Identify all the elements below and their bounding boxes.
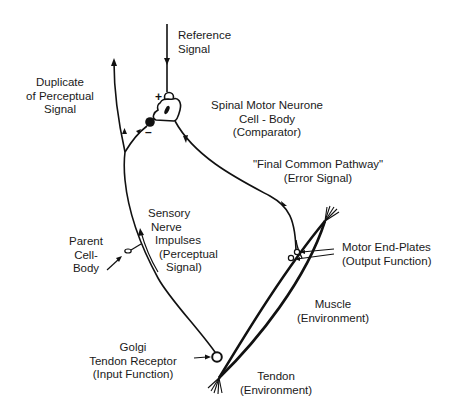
motor-end-plates-label: Motor End-Plates (Output Function) [342, 241, 431, 268]
feedback-branch-to-comparator [125, 126, 147, 152]
pointer-arrow-icon [205, 355, 211, 360]
parent-cell-body-icon [125, 249, 131, 253]
arrow-down-icon [164, 58, 170, 65]
arrow-icon [281, 201, 287, 206]
diagram-drawing: + – [0, 0, 465, 414]
reference-signal-line [164, 24, 170, 92]
sensory-nerve-impulses-label: Sensory Nerve Impulses (Perceptual Signa… [148, 207, 218, 275]
diagram-canvas: + – Reference Signal Duplicate of Percep… [0, 0, 465, 414]
parent-cell-body-label: Parent Cell- Body [64, 235, 108, 276]
arrow-up-icon [138, 228, 144, 236]
minus-sign: – [145, 125, 152, 139]
tendon-label: Tendon (Environment) [234, 370, 318, 397]
duplicate-signal-path [111, 58, 127, 152]
muscle-label: Muscle (Environment) [291, 298, 375, 325]
final-common-pathway-label: "Final Common Pathway" (Error Signal) [243, 158, 393, 185]
arrow-up-icon [111, 58, 117, 66]
duplicate-perceptual-signal-label: Duplicate of Perceptual Signal [18, 76, 102, 117]
golgi-tendon-receptor-label: Golgi Tendon Receptor (Input Function) [78, 341, 188, 382]
arrow-up-icon [122, 128, 127, 134]
plus-sign: + [155, 90, 162, 104]
reference-signal-label: Reference Signal [178, 29, 231, 56]
comparator-label: Spinal Motor Neurone Cell - Body (Compar… [200, 99, 334, 140]
golgi-tendon-receptor [194, 352, 222, 362]
